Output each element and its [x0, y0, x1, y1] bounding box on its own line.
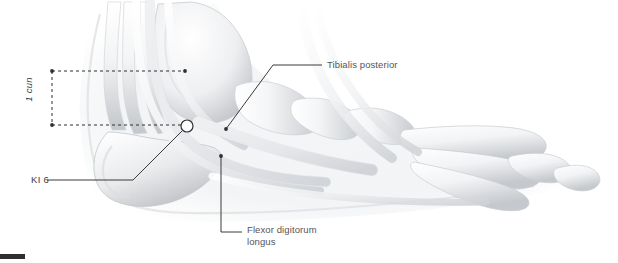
- anatomy-label-tibialis-posterior: Tibialis posterior: [327, 59, 398, 71]
- ki6-acupoint-marker[interactable]: [181, 120, 193, 132]
- flexor-label-line-2: longus: [247, 236, 276, 247]
- anatomy-label-flexor-digitorum-longus: Flexor digitorum longus: [247, 224, 367, 247]
- measurement-label-1-cun: 1 cun: [23, 60, 34, 120]
- corner-marker-bar: [0, 254, 25, 259]
- flexor-label-line-1: Flexor digitorum: [247, 224, 317, 235]
- acupoint-label-ki6: KI 6: [31, 174, 49, 186]
- anatomy-figure: KI 6 1 cun Tibialis posterior Flexor dig…: [0, 0, 618, 263]
